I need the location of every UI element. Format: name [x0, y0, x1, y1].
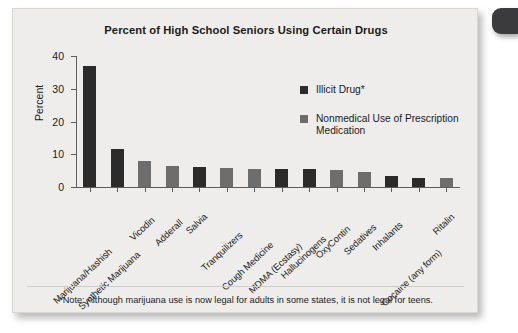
y-tick-label: 40: [52, 50, 64, 62]
bar: [358, 172, 371, 187]
y-axis-line: [76, 56, 77, 187]
x-tick-mark: [117, 187, 118, 192]
x-tick-mark: [364, 187, 365, 192]
x-tick-mark: [199, 187, 200, 192]
x-tick-label: Vicodin: [127, 214, 156, 242]
bar: [440, 178, 453, 187]
chart-title: Percent of High School Seniors Using Cer…: [13, 24, 479, 36]
legend-label: Nonmedical Use of Prescription Medicatio…: [316, 113, 470, 138]
x-tick-mark: [282, 187, 283, 192]
x-tick-mark: [419, 187, 420, 192]
bar: [138, 161, 151, 187]
y-tick-label: 20: [52, 116, 64, 128]
x-tick-mark: [172, 187, 173, 192]
legend-label: Illicit Drug*: [316, 84, 365, 97]
legend-item[interactable]: Nonmedical Use of Prescription Medicatio…: [300, 113, 470, 138]
y-tick-mark: [71, 122, 76, 123]
x-tick-label: Inhalants: [370, 219, 405, 252]
y-tick-mark: [71, 187, 76, 188]
bar: [111, 149, 124, 187]
bar: [83, 66, 96, 187]
bar: [275, 169, 288, 187]
footnote-divider: [27, 286, 464, 287]
y-tick-label: 30: [52, 83, 64, 95]
bar: [248, 169, 261, 187]
footnote-text: *Note: Although marijuana use is now leg…: [13, 295, 479, 305]
bar: [303, 169, 316, 187]
x-tick-mark: [391, 187, 392, 192]
bar: [385, 176, 398, 187]
x-tick-label: Adderall: [152, 217, 184, 248]
corner-tab-decoration: [492, 8, 518, 34]
legend-item[interactable]: Illicit Drug*: [300, 84, 470, 97]
bar: [220, 168, 233, 187]
x-axis-line: [76, 187, 460, 188]
y-tick-mark: [71, 154, 76, 155]
x-tick-mark: [337, 187, 338, 192]
y-tick-mark: [71, 56, 76, 57]
x-tick-mark: [227, 187, 228, 192]
x-tick-mark: [90, 187, 91, 192]
legend-swatch-icon: [300, 115, 308, 123]
bar: [166, 166, 179, 187]
legend-swatch-icon: [300, 86, 308, 94]
chart-card: Percent of High School Seniors Using Cer…: [12, 8, 478, 313]
x-tick-mark: [309, 187, 310, 192]
chart-legend: Illicit Drug*Nonmedical Use of Prescript…: [300, 84, 470, 154]
y-tick-label: 10: [52, 148, 64, 160]
bar: [330, 170, 343, 187]
x-tick-label: Ritalin: [431, 211, 457, 236]
x-tick-mark: [254, 187, 255, 192]
y-tick-mark: [71, 89, 76, 90]
bar: [193, 167, 206, 187]
x-tick-label: Salvia: [184, 211, 210, 236]
x-tick-mark: [145, 187, 146, 192]
x-tick-mark: [446, 187, 447, 192]
y-axis-title: Percent: [33, 85, 45, 121]
screenshot-page: Percent of High School Seniors Using Cer…: [0, 0, 518, 333]
y-tick-label: 0: [58, 181, 64, 193]
bar: [412, 178, 425, 187]
